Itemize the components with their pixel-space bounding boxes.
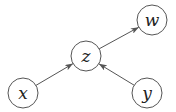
edge-x-to-z <box>36 64 73 86</box>
node-w: w <box>137 5 167 35</box>
node-z: z <box>71 41 101 71</box>
node-x-label: x <box>18 83 28 103</box>
graph-diagram: x z w y <box>0 0 176 112</box>
nodes: x z w y <box>8 5 167 108</box>
edge-z-to-w <box>99 27 139 49</box>
node-y-label: y <box>141 83 152 103</box>
node-z-label: z <box>81 46 92 66</box>
node-y: y <box>132 78 162 108</box>
edge-y-to-z <box>99 64 134 85</box>
node-x: x <box>8 78 38 108</box>
node-w-label: w <box>145 10 160 30</box>
